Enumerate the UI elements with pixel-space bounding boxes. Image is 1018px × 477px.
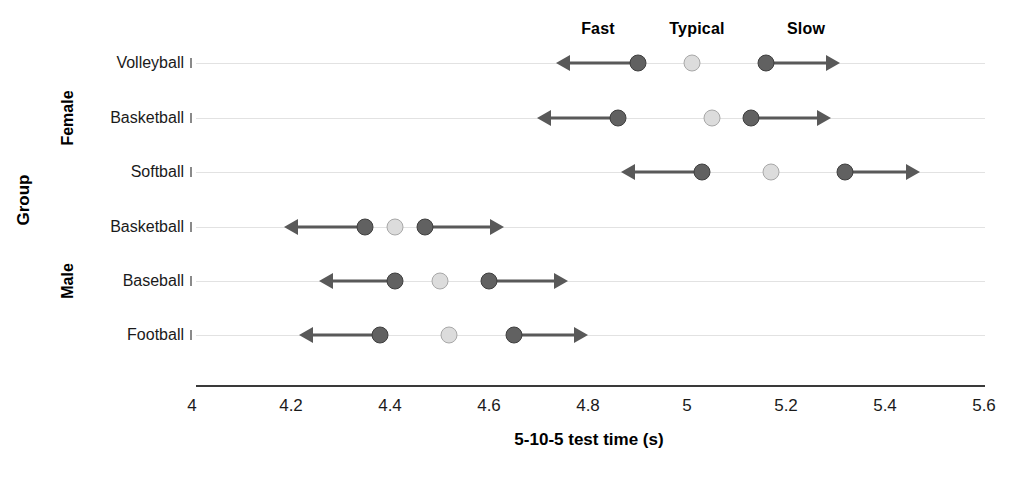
slow-arrowhead-2 bbox=[906, 164, 920, 180]
group-label-male: Male bbox=[59, 263, 77, 299]
slow-arrowhead-3 bbox=[490, 219, 504, 235]
fast-arrowhead-1 bbox=[537, 110, 551, 126]
fast-range-line-0 bbox=[570, 62, 637, 65]
x-tick-label-7: 5.4 bbox=[873, 396, 897, 416]
marker-fast-4 bbox=[386, 273, 403, 290]
x-tick-label-5: 5 bbox=[682, 396, 691, 416]
chart-canvas: FastTypicalSlowVolleyballBasketballSoftb… bbox=[0, 0, 1018, 477]
slow-range-line-3 bbox=[425, 226, 492, 229]
y-label-volleyball-0: Volleyball bbox=[0, 54, 184, 72]
fast-arrowhead-0 bbox=[556, 55, 570, 71]
slow-range-line-4 bbox=[489, 280, 556, 283]
x-axis-line bbox=[196, 385, 985, 387]
marker-slow-3 bbox=[416, 219, 433, 236]
group-label-female: Female bbox=[59, 90, 77, 145]
marker-slow-4 bbox=[481, 273, 498, 290]
fast-arrowhead-4 bbox=[319, 273, 333, 289]
marker-typical-0 bbox=[683, 55, 700, 72]
marker-typical-1 bbox=[703, 110, 720, 127]
slow-arrowhead-1 bbox=[817, 110, 831, 126]
x-tick-label-1: 4.2 bbox=[279, 396, 303, 416]
marker-slow-0 bbox=[758, 55, 775, 72]
fast-range-line-2 bbox=[635, 171, 702, 174]
marker-fast-5 bbox=[372, 327, 389, 344]
fast-arrowhead-3 bbox=[284, 219, 298, 235]
y-label-football-5: Football bbox=[0, 326, 184, 344]
x-tick-label-4: 4.8 bbox=[576, 396, 600, 416]
fast-range-line-3 bbox=[298, 226, 365, 229]
column-header-fast: Fast bbox=[581, 20, 615, 38]
column-header-slow: Slow bbox=[787, 20, 825, 38]
marker-fast-2 bbox=[693, 164, 710, 181]
slow-range-line-5 bbox=[514, 334, 576, 337]
marker-fast-3 bbox=[357, 219, 374, 236]
marker-slow-2 bbox=[837, 164, 854, 181]
marker-typical-2 bbox=[763, 164, 780, 181]
y-tickmark-3 bbox=[190, 222, 192, 232]
marker-typical-3 bbox=[386, 219, 403, 236]
fast-arrowhead-2 bbox=[621, 164, 635, 180]
fast-arrowhead-5 bbox=[299, 327, 313, 343]
x-axis-title: 5-10-5 test time (s) bbox=[514, 430, 663, 450]
y-tickmark-1 bbox=[190, 113, 192, 123]
marker-fast-0 bbox=[629, 55, 646, 72]
x-tick-label-6: 5.2 bbox=[774, 396, 798, 416]
fast-range-line-1 bbox=[551, 117, 618, 120]
y-label-baseball-4: Baseball bbox=[0, 272, 184, 290]
slow-range-line-0 bbox=[766, 62, 828, 65]
marker-slow-5 bbox=[505, 327, 522, 344]
y-tickmark-0 bbox=[190, 58, 192, 68]
marker-slow-1 bbox=[743, 110, 760, 127]
y-tickmark-5 bbox=[190, 330, 192, 340]
marker-typical-4 bbox=[431, 273, 448, 290]
slow-arrowhead-5 bbox=[574, 327, 588, 343]
y-axis-title: Group bbox=[14, 175, 34, 226]
slow-arrowhead-4 bbox=[554, 273, 568, 289]
slow-range-line-1 bbox=[751, 117, 818, 120]
fast-range-line-5 bbox=[313, 334, 380, 337]
y-tickmark-2 bbox=[190, 167, 192, 177]
marker-typical-5 bbox=[441, 327, 458, 344]
y-label-basketball-1: Basketball bbox=[0, 109, 184, 127]
marker-fast-1 bbox=[609, 110, 626, 127]
column-header-typical: Typical bbox=[669, 20, 724, 38]
slow-range-line-2 bbox=[845, 171, 907, 174]
x-tick-label-3: 4.6 bbox=[477, 396, 501, 416]
gridline-row-4 bbox=[196, 281, 985, 282]
y-tickmark-4 bbox=[190, 276, 192, 286]
x-tick-label-0: 4 bbox=[187, 396, 196, 416]
x-tick-label-2: 4.4 bbox=[378, 396, 402, 416]
slow-arrowhead-0 bbox=[826, 55, 840, 71]
x-tick-label-8: 5.6 bbox=[972, 396, 996, 416]
